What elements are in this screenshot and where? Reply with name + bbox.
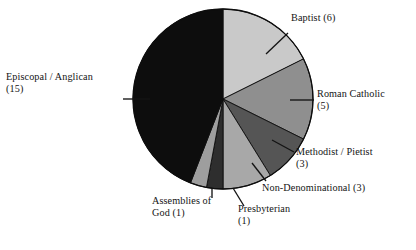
slice-label-non-denominational: Non-Denominational (3) — [262, 182, 365, 194]
pie-slice-group — [133, 9, 313, 189]
slice-label-episcopal-anglican-line1: Episcopal / Anglican — [6, 71, 93, 82]
slice-label-methodist-pietist-line1: Methodist / Pietist — [296, 146, 373, 157]
slice-label-presbyterian-line2: (1) — [238, 215, 290, 227]
pie-chart: Episcopal / Anglican (15) Baptist (6) Ro… — [0, 0, 416, 250]
slice-label-methodist-pietist: Methodist / Pietist (3) — [296, 146, 373, 171]
slice-label-presbyterian-line1: Presbyterian — [238, 203, 290, 214]
slice-label-assemblies-of-god-line1: Assemblies of — [152, 195, 211, 206]
slice-label-roman-catholic-line2: (5) — [317, 100, 385, 112]
slice-label-baptist: Baptist (6) — [291, 12, 335, 24]
slice-label-assemblies-of-god: Assemblies of God (1) — [152, 195, 211, 220]
slice-label-roman-catholic: Roman Catholic (5) — [317, 88, 385, 113]
slice-label-episcopal-anglican: Episcopal / Anglican (15) — [6, 71, 93, 96]
slice-label-roman-catholic-line1: Roman Catholic — [317, 88, 385, 99]
slice-label-non-denominational-line1: Non-Denominational (3) — [262, 182, 365, 193]
slice-label-methodist-pietist-line2: (3) — [296, 158, 373, 170]
slice-label-episcopal-anglican-line2: (15) — [6, 83, 93, 95]
slice-label-assemblies-of-god-line2: God (1) — [152, 207, 211, 219]
slice-label-baptist-line1: Baptist (6) — [291, 12, 335, 23]
slice-label-presbyterian: Presbyterian (1) — [238, 203, 290, 228]
